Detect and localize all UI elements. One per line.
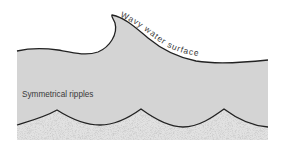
symmetrical-ripples-label: Symmetrical ripples <box>22 90 93 99</box>
wave-ripple-diagram: Wavy water surface Symmetrical ripples <box>0 0 286 152</box>
